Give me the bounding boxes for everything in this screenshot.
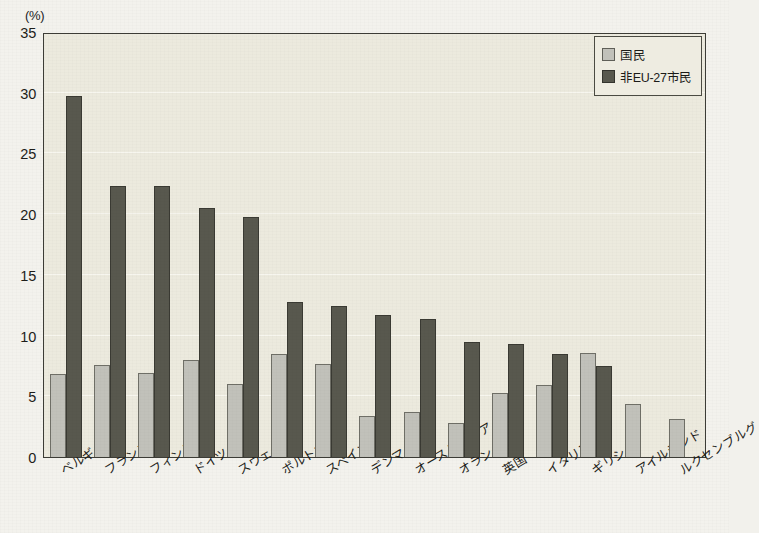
bar-dark	[596, 366, 612, 457]
bar-dark	[331, 306, 347, 457]
legend-swatch-dark-icon	[602, 70, 615, 83]
bar-light	[138, 373, 154, 457]
bar-group	[574, 34, 618, 457]
bar-dark	[66, 96, 82, 457]
bar-light	[227, 384, 243, 457]
bar-light	[448, 423, 464, 457]
bar-light	[492, 393, 508, 457]
bar-group	[177, 34, 221, 457]
legend: 国民 非EU-27市民	[594, 36, 702, 96]
bars-container	[44, 34, 705, 457]
bar-light	[50, 374, 66, 457]
legend-item-0: 国民	[602, 45, 694, 64]
legend-label-1: 非EU-27市民	[620, 67, 692, 86]
bar-group	[309, 34, 353, 457]
bar-group	[442, 34, 486, 457]
bar-group	[265, 34, 309, 457]
bar-light	[271, 354, 287, 457]
bar-group	[486, 34, 530, 457]
bar-light	[359, 416, 375, 457]
bar-dark	[199, 208, 215, 457]
bar-light	[183, 360, 199, 457]
bar-light	[625, 404, 641, 457]
bar-dark	[110, 186, 126, 457]
legend-item-1: 非EU-27市民	[602, 67, 694, 86]
bar-dark	[287, 302, 303, 457]
bar-group	[132, 34, 176, 457]
bar-group	[353, 34, 397, 457]
bar-dark	[154, 186, 170, 457]
bar-dark	[464, 342, 480, 457]
legend-label-0: 国民	[620, 45, 645, 64]
bar-dark	[552, 354, 568, 457]
bar-dark	[243, 217, 259, 457]
bar-light	[536, 385, 552, 457]
bar-dark	[420, 319, 436, 457]
bar-group	[221, 34, 265, 457]
plot-area	[43, 33, 706, 458]
legend-swatch-light-icon	[602, 48, 615, 61]
bar-dark	[375, 315, 391, 457]
bar-light	[404, 412, 420, 457]
bar-group	[663, 34, 707, 457]
bar-dark	[508, 344, 524, 457]
bar-group	[619, 34, 663, 457]
bar-group	[88, 34, 132, 457]
bar-light	[580, 353, 596, 457]
bar-group	[398, 34, 442, 457]
bar-light	[315, 364, 331, 458]
bar-light	[669, 419, 685, 457]
bar-light	[94, 365, 110, 457]
bar-group	[530, 34, 574, 457]
bar-group	[44, 34, 88, 457]
